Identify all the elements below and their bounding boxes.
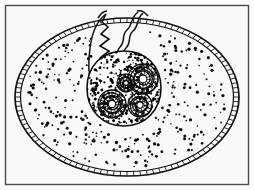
stipple-dot [64,50,66,52]
mass-stipple-dot [130,63,132,65]
mass-stipple-dot [137,57,140,60]
stipple-dot [179,65,181,67]
stipple-dot [103,136,106,139]
stipple-dot [58,114,61,117]
stipple-dot [181,50,183,52]
stipple-dot [56,144,58,146]
stipple-dot [195,84,197,86]
mass-stipple-dot [103,81,105,83]
stipple-dot [95,132,97,134]
stipple-dot [28,102,31,105]
mass-stipple-dot [94,87,97,90]
mass-stipple-dot [133,62,134,63]
stipple-dot [57,141,59,143]
mass-stipple-dot [155,96,156,97]
stipple-dot [42,58,44,60]
mass-stipple-dot [130,94,131,95]
stipple-dot [183,86,186,89]
stipple-dot [196,105,199,108]
stipple-dot [67,69,70,72]
stipple-dot [57,78,60,81]
stipple-dot [148,150,151,153]
coil-lower-left [98,90,126,118]
stipple-dot [66,44,69,47]
stipple-dot [95,153,98,156]
stipple-dot [163,52,166,55]
stipple-dot [160,44,162,46]
stipple-dot [155,155,158,158]
stipple-dot [53,79,55,81]
stipple-dot [38,78,40,80]
stipple-dot [64,56,65,57]
stipple-dot [92,131,94,133]
stipple-dot [133,166,135,168]
stipple-dot [136,138,139,141]
stipple-dot [198,58,201,61]
stipple-dot [72,99,74,101]
mass-stipple-dot [93,102,95,104]
stipple-dot [116,149,118,151]
stipple-dot [46,53,49,56]
mass-stipple-dot [124,122,125,123]
stipple-dot [57,128,59,130]
stipple-dot [43,101,46,104]
stipple-dot [64,99,67,102]
stipple-dot [142,134,144,136]
stipple-dot [162,55,164,57]
stipple-dot [32,86,35,89]
stipple-dot [42,134,44,136]
stipple-dot [36,97,38,99]
stipple-dot [113,163,116,166]
mass-stipple-dot [107,76,109,78]
stipple-dot [50,110,53,113]
stipple-dot [84,53,87,56]
mass-stipple-dot [99,79,102,82]
stipple-dot [188,42,191,45]
mass-stipple-dot [96,106,97,107]
stipple-dot [77,83,80,86]
stipple-dot [69,79,71,81]
stipple-dot [65,47,68,50]
stipple-dot [220,83,222,85]
mass-stipple-dot [134,53,136,55]
mass-stipple-dot [104,63,105,64]
mass-stipple-dot [96,94,97,95]
stipple-dot [148,156,149,157]
stipple-dot [63,115,66,118]
stipple-dot [185,120,187,122]
stipple-dot [173,81,175,83]
stipple-dot [174,86,176,88]
mass-stipple-dot [106,59,108,61]
stipple-dot [68,142,71,145]
stipple-dot [76,151,78,153]
stipple-dot [198,65,200,67]
mass-stipple-dot [128,69,130,71]
stipple-dot [189,86,192,89]
stipple-dot [43,83,45,85]
mass-stipple-dot [142,90,144,92]
stipple-dot [84,158,86,160]
stipple-dot [164,58,167,61]
stipple-dot [187,105,189,107]
stipple-dot [134,143,136,145]
mass-stipple-dot [126,122,128,124]
stipple-dot [214,117,216,119]
stipple-dot [164,69,166,71]
stipple-dot [68,52,70,54]
stipple-dot [83,142,85,144]
stipple-dot [82,43,84,45]
stipple-dot [82,118,85,121]
stipple-dot [99,124,101,126]
stipple-dot [81,110,84,113]
stipple-dot [149,31,151,33]
stipple-dot [222,107,225,110]
mass-stipple-dot [115,87,117,89]
stipple-dot [81,68,83,70]
stipple-dot [155,117,157,119]
mass-stipple-dot [115,72,117,74]
mass-stipple-dot [117,123,119,125]
stipple-dot [191,149,193,151]
stipple-dot [60,58,62,60]
mass-stipple-dot [94,109,96,111]
stipple-dot [151,153,153,155]
